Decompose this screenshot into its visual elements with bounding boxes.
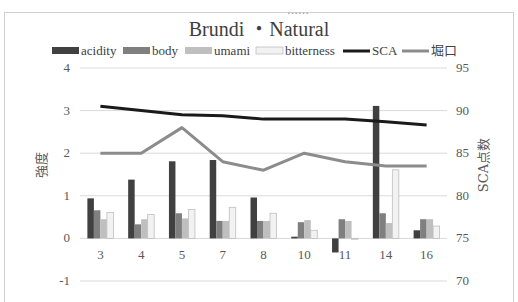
bar-umami	[304, 220, 311, 238]
legend-label: umami	[214, 43, 250, 58]
x-tick-label: 8	[260, 247, 267, 262]
bar-bitterness	[352, 238, 359, 239]
legend-label: bitterness	[285, 43, 335, 58]
bar-body	[339, 219, 346, 238]
bar-body	[420, 219, 427, 238]
bar-acidity	[332, 238, 339, 252]
bar-bitterness	[188, 209, 195, 238]
bar-body	[379, 213, 386, 238]
bar-umami	[223, 221, 230, 238]
legend-label: SCA	[372, 43, 398, 58]
legend-swatch-body	[123, 47, 150, 54]
x-tick-label: 4	[138, 247, 145, 262]
bar-body	[216, 221, 223, 238]
bar-body	[135, 224, 142, 238]
bar-bitterness	[270, 213, 277, 238]
bar-umami	[345, 221, 352, 238]
left-axis-ticks: 43210-1	[59, 60, 70, 288]
x-tick-label: 3	[97, 247, 104, 262]
bar-acidity	[210, 160, 217, 238]
bar-acidity	[373, 106, 380, 238]
bar-acidity	[87, 198, 94, 238]
legend-swatch-acidity	[52, 47, 79, 54]
legend-swatch-bitterness	[256, 47, 283, 54]
bar-umami	[386, 223, 393, 238]
x-axis-ticks: 3457810111416	[97, 247, 433, 262]
bar-acidity	[414, 230, 421, 238]
y-tick-label: 4	[64, 60, 71, 75]
legend-swatch-umami	[185, 47, 212, 54]
y2-tick-label: 75	[456, 230, 469, 245]
bar-umami	[427, 219, 434, 238]
legend-label: 堀口	[431, 43, 457, 58]
bar-bitterness	[392, 170, 399, 239]
x-tick-label: 16	[420, 247, 434, 262]
bar-bitterness	[148, 215, 155, 239]
x-tick-label: 14	[379, 247, 393, 262]
legend: aciditybodyumamibitternessSCA堀口	[52, 43, 457, 58]
bar-acidity	[169, 161, 176, 238]
bar-bitterness	[229, 207, 236, 238]
bar-bitterness	[107, 212, 114, 238]
left-axis-title: 強度	[34, 152, 49, 178]
y-tick-label: -1	[59, 273, 70, 288]
right-axis-title: SCA点数	[476, 138, 491, 192]
chart-title: Brundi ・Natural	[189, 18, 330, 40]
right-axis-ticks: 959085807570	[456, 60, 469, 288]
bar-bitterness	[433, 226, 440, 238]
x-tick-label: 5	[179, 247, 186, 262]
y-tick-label: 3	[64, 103, 71, 118]
x-tick-label: 10	[298, 247, 311, 262]
y-tick-label: 2	[64, 145, 71, 160]
bar-series	[87, 106, 439, 253]
bar-umami	[100, 219, 107, 238]
bar-body	[94, 210, 101, 238]
bar-umami	[141, 219, 148, 238]
legend-label: acidity	[81, 43, 117, 58]
x-tick-label: 11	[339, 247, 352, 262]
x-tick-label: 7	[219, 247, 226, 262]
y2-tick-label: 90	[456, 103, 469, 118]
bar-body	[298, 222, 305, 238]
y2-tick-label: 80	[456, 188, 469, 203]
y2-tick-label: 85	[456, 145, 469, 160]
legend-label: body	[152, 43, 179, 58]
bar-bitterness	[311, 230, 318, 238]
bar-acidity	[251, 198, 258, 239]
y-tick-label: 1	[64, 188, 71, 203]
bar-umami	[264, 221, 271, 238]
bar-body	[175, 213, 182, 238]
bar-body	[257, 221, 264, 238]
bar-acidity	[291, 237, 298, 239]
y2-tick-label: 70	[456, 273, 469, 288]
bar-umami	[182, 218, 189, 238]
y2-tick-label: 95	[456, 60, 469, 75]
bar-acidity	[128, 180, 135, 239]
y-tick-label: 0	[64, 230, 71, 245]
